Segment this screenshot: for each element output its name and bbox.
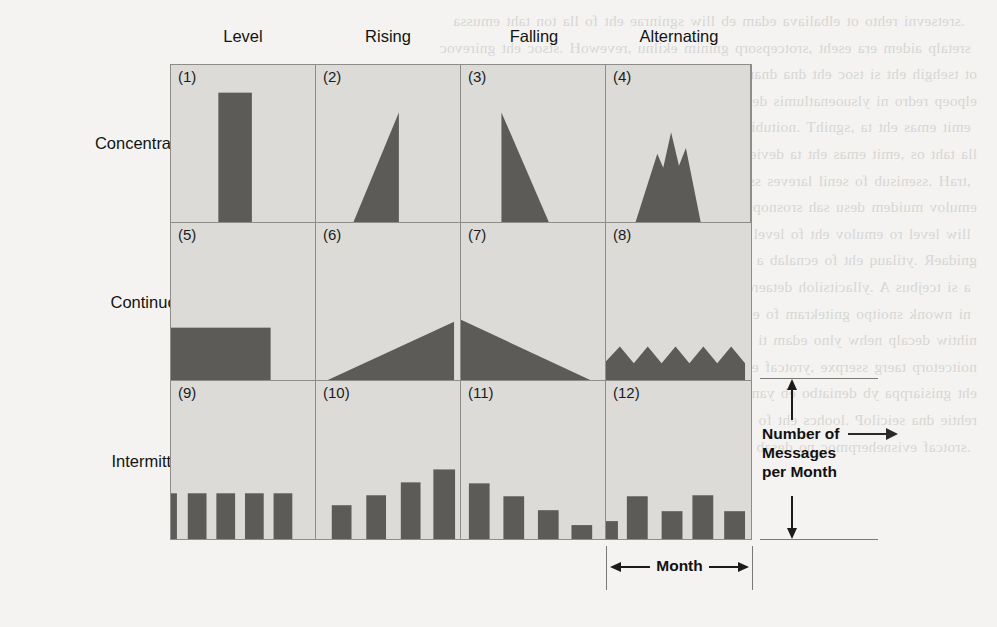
pattern-matrix-grid: (1) (2) (3) (4) (5) (6) xyxy=(170,64,752,540)
panel-number: (7) xyxy=(468,226,486,243)
column-header-rising: Rising xyxy=(315,27,461,46)
panel-9: (9) xyxy=(171,381,316,539)
panel-5-graphic xyxy=(171,223,315,380)
column-header-alternating: Alternating xyxy=(606,27,752,46)
panel-1: (1) xyxy=(171,65,316,223)
panel-8-graphic xyxy=(606,223,751,380)
panel-4-graphic xyxy=(606,65,750,222)
x-axis-legend: Month xyxy=(606,546,753,590)
panel-2-graphic xyxy=(316,65,460,222)
panel-number: (1) xyxy=(178,68,196,85)
x-axis-label: Month xyxy=(606,557,753,575)
panel-number: (3) xyxy=(468,68,486,85)
panel-6: (6) xyxy=(316,223,461,381)
panel-7-graphic xyxy=(461,223,605,380)
panel-number: (10) xyxy=(323,384,350,401)
panel-8: (8) xyxy=(606,223,751,381)
panel-number: (6) xyxy=(323,226,341,243)
panel-10: (10) xyxy=(316,381,461,539)
panel-1-graphic xyxy=(171,65,315,222)
panel-number: (12) xyxy=(613,384,640,401)
panel-7: (7) xyxy=(461,223,606,381)
panel-number: (5) xyxy=(178,226,196,243)
column-header-falling: Falling xyxy=(461,27,607,46)
panel-number: (4) xyxy=(613,68,631,85)
panel-3: (3) xyxy=(461,65,606,223)
panel-number: (11) xyxy=(468,384,494,401)
panel-number: (2) xyxy=(323,68,341,85)
panel-2: (2) xyxy=(316,65,461,223)
panel-12-graphic xyxy=(606,381,751,539)
panel-number: (8) xyxy=(613,226,631,243)
panel-4: (4) xyxy=(606,65,751,223)
panel-6-graphic xyxy=(316,223,460,380)
panel-11: (11) xyxy=(461,381,606,539)
y-axis-label-line-3: per Month xyxy=(762,462,878,481)
panel-11-graphic xyxy=(461,381,605,539)
panel-5: (5) xyxy=(171,223,316,381)
panel-9-graphic xyxy=(171,381,315,539)
panel-10-graphic xyxy=(316,381,460,539)
panel-12: (12) xyxy=(606,381,751,539)
column-header-level: Level xyxy=(170,27,316,46)
panel-number: (9) xyxy=(178,384,196,401)
panel-3-graphic xyxy=(461,65,605,222)
y-axis-legend: Number of Messages per Month xyxy=(760,378,878,540)
right-arrow-icon xyxy=(848,425,900,443)
y-axis-label-line-2: Messages xyxy=(762,443,878,462)
